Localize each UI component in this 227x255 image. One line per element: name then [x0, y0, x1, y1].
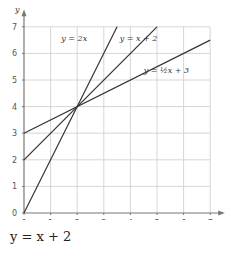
series-line	[24, 27, 117, 213]
y-tick-label: 4	[12, 103, 17, 112]
x-tick-label: 3	[101, 219, 106, 220]
series-line	[24, 27, 157, 160]
x-tick-label: 7	[208, 219, 213, 220]
y-tick-label: 2	[12, 156, 17, 165]
y-tick-label: 0	[12, 209, 17, 218]
x-tick-label: 6	[181, 219, 186, 220]
x-axis-label: x	[224, 218, 227, 220]
x-tick-label: 5	[154, 219, 159, 220]
label-y-x-plus-2: y = x + 2	[119, 34, 158, 43]
label-y-half-x-plus-3: y = ½x + 3	[143, 66, 189, 75]
x-axis-arrow-icon	[218, 211, 225, 216]
answer-caption: y = x + 2	[10, 229, 71, 244]
chart: 0123456701234567yxy = 2xy = x + 2y = ½x …	[0, 0, 226, 220]
y-tick-label: 3	[12, 129, 17, 138]
y-tick-label: 5	[12, 76, 17, 85]
x-tick-label: 0	[21, 219, 26, 220]
series-line	[24, 40, 210, 133]
y-tick-label: 6	[12, 49, 17, 58]
y-tick-label: 1	[12, 182, 17, 191]
y-axis-arrow-icon	[22, 10, 27, 17]
x-tick-label: 4	[128, 219, 133, 220]
label-y-2x: y = 2x	[60, 34, 87, 43]
y-axis-label: y	[14, 5, 20, 14]
x-tick-label: 1	[48, 219, 53, 220]
x-tick-label: 2	[75, 219, 80, 220]
y-tick-label: 7	[12, 23, 17, 32]
